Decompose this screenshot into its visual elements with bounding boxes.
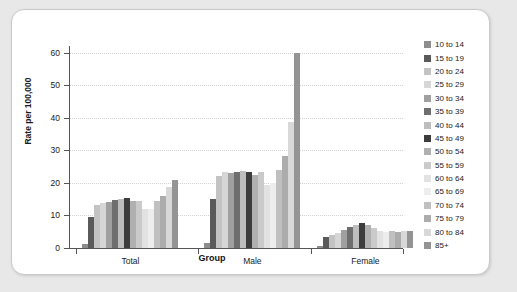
legend-item[interactable]: 20 to 24 — [424, 65, 494, 78]
bar — [335, 233, 341, 248]
legend-label: 85+ — [435, 241, 449, 250]
bar — [282, 156, 288, 248]
bar — [395, 232, 401, 248]
bar — [264, 185, 270, 248]
legend-swatch — [424, 95, 431, 102]
bar — [383, 232, 389, 248]
x-axis-label: Group — [12, 253, 412, 263]
legend-label: 80 to 84 — [435, 228, 464, 237]
bar-chart: Rate per 100,000 0102030405060 TotalMale… — [12, 10, 491, 276]
bar — [88, 217, 94, 248]
legend-swatch — [424, 188, 431, 195]
bar — [130, 201, 136, 248]
bar — [228, 173, 234, 248]
y-axis-line — [69, 46, 70, 248]
legend-label: 15 to 19 — [435, 54, 464, 63]
legend-item[interactable]: 55 to 59 — [424, 159, 494, 172]
bar — [377, 231, 383, 248]
legend-item[interactable]: 15 to 19 — [424, 51, 494, 64]
legend-item[interactable]: 25 to 29 — [424, 78, 494, 91]
legend-item[interactable]: 30 to 34 — [424, 92, 494, 105]
legend-swatch — [424, 202, 431, 209]
y-axis-label: Rate per 100,000 — [23, 51, 33, 171]
legend-swatch — [424, 229, 431, 236]
bar — [136, 201, 142, 248]
y-tick-label: 40 — [34, 113, 60, 123]
bar — [82, 244, 88, 248]
bar — [359, 223, 365, 248]
legend-label: 50 to 54 — [435, 147, 464, 156]
bar — [124, 198, 130, 248]
legend-label: 65 to 69 — [435, 187, 464, 196]
bar — [154, 201, 160, 248]
legend-label: 70 to 74 — [435, 201, 464, 210]
bar — [276, 170, 282, 248]
legend-swatch — [424, 242, 431, 249]
legend-swatch — [424, 122, 431, 129]
bar — [204, 243, 210, 248]
bar — [142, 209, 148, 248]
bar — [172, 180, 178, 248]
y-tick-label: 10 — [34, 210, 60, 220]
legend-label: 30 to 34 — [435, 94, 464, 103]
bar — [216, 176, 222, 248]
bar — [222, 172, 228, 248]
bar — [329, 235, 335, 248]
legend-label: 10 to 14 — [435, 40, 464, 49]
legend-swatch — [424, 175, 431, 182]
bar — [118, 199, 124, 248]
bar — [341, 230, 347, 248]
chart-panel: Rate per 100,000 0102030405060 TotalMale… — [11, 9, 490, 275]
bar-group — [204, 46, 301, 248]
bar — [270, 183, 276, 248]
legend-item[interactable]: 65 to 69 — [424, 185, 494, 198]
chart-legend: 10 to 1415 to 1920 to 2425 to 2930 to 34… — [424, 38, 494, 252]
legend-item[interactable]: 45 to 49 — [424, 132, 494, 145]
legend-label: 45 to 49 — [435, 134, 464, 143]
legend-item[interactable]: 85+ — [424, 239, 494, 252]
x-axis-line — [69, 248, 403, 249]
legend-label: 55 to 59 — [435, 161, 464, 170]
bar — [106, 202, 112, 248]
bar — [288, 122, 294, 248]
bar — [371, 228, 377, 248]
legend-item[interactable]: 50 to 54 — [424, 145, 494, 158]
bar — [365, 225, 371, 248]
bar — [323, 237, 329, 248]
bar — [240, 171, 246, 248]
bar — [100, 203, 106, 248]
y-tick-label: 30 — [34, 145, 60, 155]
legend-item[interactable]: 40 to 44 — [424, 118, 494, 131]
bar — [166, 187, 172, 248]
legend-swatch — [424, 55, 431, 62]
legend-item[interactable]: 80 to 84 — [424, 225, 494, 238]
bar — [294, 53, 300, 248]
bar — [94, 205, 100, 248]
legend-label: 25 to 29 — [435, 80, 464, 89]
legend-item[interactable]: 60 to 64 — [424, 172, 494, 185]
bar — [317, 246, 323, 248]
legend-swatch — [424, 68, 431, 75]
bar — [246, 172, 252, 248]
legend-item[interactable]: 35 to 39 — [424, 105, 494, 118]
y-tick-label: 0 — [34, 243, 60, 253]
legend-label: 35 to 39 — [435, 107, 464, 116]
legend-label: 75 to 79 — [435, 214, 464, 223]
legend-swatch — [424, 81, 431, 88]
bar — [389, 231, 395, 248]
legend-label: 20 to 24 — [435, 67, 464, 76]
legend-item[interactable]: 70 to 74 — [424, 199, 494, 212]
legend-swatch — [424, 148, 431, 155]
bar-group — [317, 46, 414, 248]
bar — [148, 209, 154, 248]
legend-swatch — [424, 41, 431, 48]
bar — [347, 227, 353, 248]
y-tick-label: 60 — [34, 48, 60, 58]
legend-swatch — [424, 215, 431, 222]
legend-swatch — [424, 135, 431, 142]
legend-item[interactable]: 75 to 79 — [424, 212, 494, 225]
bar — [160, 196, 166, 248]
legend-item[interactable]: 10 to 14 — [424, 38, 494, 51]
legend-label: 60 to 64 — [435, 174, 464, 183]
y-tick-label: 20 — [34, 178, 60, 188]
